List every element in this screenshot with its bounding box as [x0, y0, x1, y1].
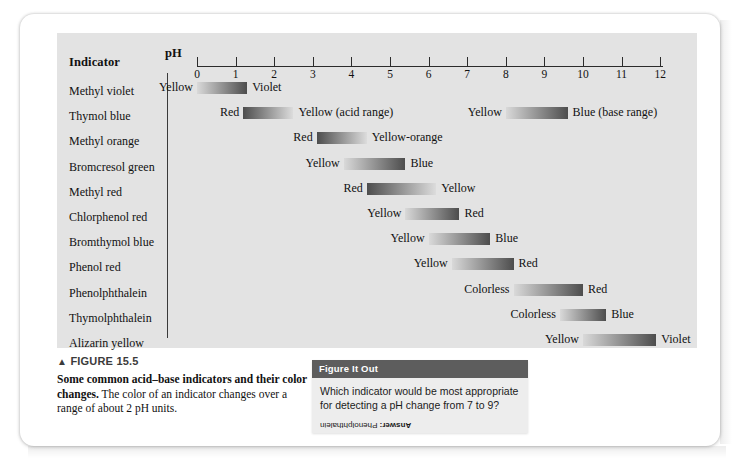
indicator-range-bar: [506, 107, 568, 119]
indicator-row: Bromthymol blueYellowBlue: [57, 231, 697, 256]
acid-color-label: Yellow: [57, 332, 579, 347]
indicator-chart-panel: Indicator pH 0123456789101112 Methyl vio…: [57, 33, 697, 348]
figure-caption-text: Some common acid–base indicators and the…: [57, 372, 307, 416]
indicator-range-bar: [514, 284, 583, 296]
base-color-label: Yellow: [441, 181, 475, 196]
figure-number-label: FIGURE 15.5: [70, 355, 138, 367]
ph-tick-1: [236, 57, 237, 67]
indicator-row: ThymolphthaleinColorlessBlue: [57, 307, 697, 332]
ph-tick-0: [197, 57, 198, 67]
acid-color-label: Yellow: [57, 80, 193, 95]
base-color-label: Blue: [611, 307, 634, 322]
indicator-range-bar: [197, 82, 247, 94]
acid-color-label: Colorless: [57, 307, 556, 322]
ph-tick-4: [351, 57, 352, 67]
indicator-range-bar: [583, 334, 656, 346]
ph-tick-11: [622, 57, 623, 67]
ph-tick-label-11: 11: [611, 68, 633, 80]
indicator-range-bar: [429, 233, 491, 245]
ph-tick-9: [544, 57, 545, 67]
ph-tick-label-6: 6: [418, 68, 440, 80]
indicator-row: Methyl redRedYellow: [57, 181, 697, 206]
indicator-range-bar: [405, 208, 459, 220]
ph-tick-12: [660, 57, 661, 67]
base-color-label: Red: [519, 256, 538, 271]
acid-color-label: Yellow: [57, 105, 502, 120]
ph-tick-label-10: 10: [572, 68, 594, 80]
ph-tick-10: [583, 57, 584, 67]
indicator-range-bar: [452, 258, 514, 270]
ph-tick-5: [390, 57, 391, 67]
indicator-range-bar: [560, 309, 606, 321]
axis-label-ph: pH: [165, 46, 182, 61]
ph-tick-3: [313, 57, 314, 67]
ph-tick-label-8: 8: [495, 68, 517, 80]
ph-tick-label-4: 4: [340, 68, 362, 80]
page-edge-shadow-right: [720, 20, 732, 444]
base-color-label: Blue: [410, 156, 433, 171]
figure-it-out-answer-text: Phenolphthalein: [320, 421, 380, 430]
indicator-row: Methyl orangeRedYellow-orange: [57, 130, 697, 155]
base-color-label: Blue: [495, 231, 518, 246]
figure-number: ▲ FIGURE 15.5: [57, 355, 307, 367]
indicator-range-bar: [317, 132, 367, 144]
ph-tick-7: [467, 57, 468, 67]
figure-caption: ▲ FIGURE 15.5 Some common acid–base indi…: [57, 355, 307, 416]
base-color-label: Violet: [252, 80, 281, 95]
triangle-icon: ▲: [57, 356, 67, 367]
base-color-label: Red: [588, 282, 607, 297]
indicator-row: Methyl violetYellowViolet: [57, 80, 697, 105]
acid-color-label: Yellow: [57, 206, 401, 221]
acid-color-label: Red: [57, 130, 313, 145]
column-header-indicator: Indicator: [69, 55, 120, 70]
ph-tick-2: [274, 57, 275, 67]
indicator-row: Bromcresol greenYellowBlue: [57, 156, 697, 181]
figure-page: Indicator pH 0123456789101112 Methyl vio…: [0, 0, 749, 465]
figure-it-out-header: Figure It Out: [312, 360, 528, 378]
base-color-label: Violet: [661, 332, 690, 347]
indicator-row: Chlorphenol redYellowRed: [57, 206, 697, 231]
indicator-range-bar: [344, 158, 406, 170]
indicator-row: Thymol blueRedYellow (acid range)YellowB…: [57, 105, 697, 130]
acid-color-label: Colorless: [57, 282, 510, 297]
ph-tick-8: [506, 57, 507, 67]
ph-tick-label-12: 12: [649, 68, 671, 80]
figure-it-out-answer: Answer: Phenolphthalein: [312, 414, 528, 433]
ph-tick-label-5: 5: [379, 68, 401, 80]
ph-tick-label-2: 2: [263, 68, 285, 80]
base-color-label: Yellow-orange: [372, 130, 443, 145]
acid-color-label: Red: [57, 181, 363, 196]
figure-it-out-question: Which indicator would be most appropriat…: [312, 378, 528, 414]
page-edge-shadow-bottom: [28, 446, 726, 458]
figure-it-out-answer-prefix: Answer:: [380, 421, 412, 430]
base-color-label: Blue (base range): [573, 105, 658, 120]
acid-color-label: Yellow: [57, 256, 448, 271]
indicator-row: Phenol redYellowRed: [57, 256, 697, 281]
acid-color-label: Yellow: [57, 231, 425, 246]
ph-tick-label-7: 7: [456, 68, 478, 80]
base-color-label: Red: [464, 206, 483, 221]
acid-color-label: Yellow: [57, 156, 340, 171]
ph-tick-label-3: 3: [302, 68, 324, 80]
indicator-range-bar: [367, 183, 436, 195]
ph-axis: 0123456789101112: [197, 55, 663, 81]
ph-axis-line: [197, 66, 663, 67]
ph-tick-label-1: 1: [225, 68, 247, 80]
ph-tick-6: [429, 57, 430, 67]
figure-it-out-box: Figure It Out Which indicator would be m…: [312, 360, 528, 433]
ph-tick-label-0: 0: [186, 68, 208, 80]
indicator-row: Alizarin yellowYellowViolet: [57, 332, 697, 357]
ph-tick-label-9: 9: [533, 68, 555, 80]
indicator-row: PhenolphthaleinColorlessRed: [57, 282, 697, 307]
